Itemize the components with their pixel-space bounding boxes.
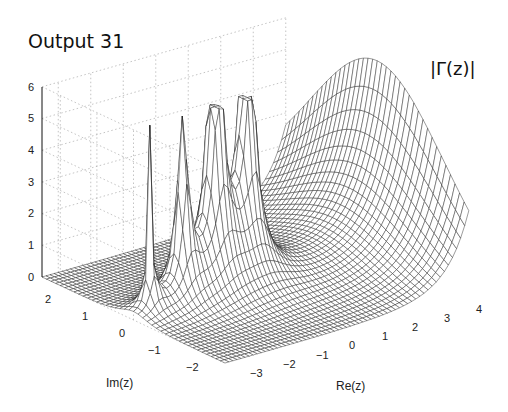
re-tick-label: −3	[250, 367, 263, 379]
surface-plot: 0 1 2 3 4 5 6 2 1 0 −1 −2 Im(z) −3 −2 −1…	[0, 0, 508, 412]
im-tick-label: −1	[148, 344, 161, 356]
gamma-surface-mesh	[42, 58, 469, 363]
im-tick-label: 2	[45, 293, 51, 305]
z-tick-label: 0	[28, 271, 34, 283]
z-tick-label: 6	[28, 81, 34, 93]
im-tick-label: 0	[119, 327, 125, 339]
z-tick-label: 5	[28, 112, 34, 124]
re-tick-label: −1	[316, 349, 329, 361]
z-tick-label: 3	[28, 176, 34, 188]
re-tick-label: −2	[283, 358, 296, 370]
im-axis-label: Im(z)	[106, 376, 133, 390]
im-tick-label: 1	[82, 310, 88, 322]
re-axis-label: Re(z)	[336, 379, 365, 393]
z-tick-label: 1	[28, 239, 34, 251]
re-tick-label: 1	[382, 330, 388, 342]
z-tick-label: 2	[28, 207, 34, 219]
re-tick-label: 4	[476, 303, 482, 315]
im-tick-label: −2	[186, 361, 199, 373]
re-tick-label: 0	[349, 339, 355, 351]
re-tick-label: 2	[412, 321, 418, 333]
z-tick-label: 4	[28, 144, 34, 156]
re-tick-label: 3	[444, 312, 450, 324]
